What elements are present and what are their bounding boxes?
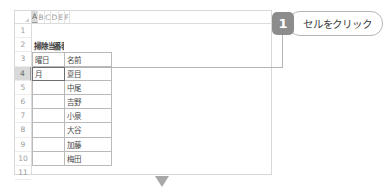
cell-e8[interactable] [191,123,231,137]
cell-a10[interactable] [32,152,65,166]
cell-a8[interactable] [32,123,65,137]
cell-e4[interactable] [191,67,231,81]
cell-d3[interactable] [152,52,192,66]
cell-c1[interactable] [112,24,152,38]
row-header-6[interactable]: 6 [15,95,31,109]
callout-step-1: 1 セルをクリック [272,11,383,36]
cell-c4[interactable] [112,67,152,81]
cell-f6[interactable] [231,95,271,109]
cell-b8-name[interactable]: 大谷 [65,123,112,137]
cell-c5[interactable] [112,81,152,95]
row-header-1[interactable]: 1 [15,24,31,38]
cell-b6-name[interactable]: 吉野 [65,95,112,109]
row-header-11[interactable]: 11 [15,166,31,180]
grid-row-1 [32,24,271,38]
step-number-badge: 1 [272,12,294,35]
cell-f11[interactable] [231,166,271,180]
cell-f3[interactable] [231,52,271,66]
grid-row-8: 大谷 [32,123,271,137]
row-header-10[interactable]: 10 [15,152,31,166]
spreadsheet-panel: A B C D E F 1 2 3 4 5 6 7 8 9 10 11 掃除当番… [14,10,272,175]
cell-d9[interactable] [152,138,192,152]
down-arrow-icon [155,176,169,187]
callout-connector-horizontal [56,67,283,68]
cell-f1[interactable] [231,24,271,38]
row-header-8[interactable]: 8 [15,123,31,137]
cell-b9-name[interactable]: 加藤 [65,138,112,152]
cell-d6[interactable] [152,95,192,109]
cell-d8[interactable] [152,123,192,137]
grid-body: 掃除当番表 曜日 名前 月 夏目 中尾 [32,24,271,174]
cell-c9[interactable] [112,138,152,152]
cell-d10[interactable] [152,152,192,166]
cell-e3[interactable] [191,52,231,66]
cell-f8[interactable] [231,123,271,137]
grid-row-10: 梅田 [32,152,271,166]
cell-c3[interactable] [112,52,152,66]
cell-c8[interactable] [112,123,152,137]
cell-a4-selected[interactable]: 月 [32,67,65,81]
grid-row-4: 月 夏目 [32,67,271,81]
cell-b5-name[interactable]: 中尾 [65,81,112,95]
cell-e7[interactable] [191,109,231,123]
cell-e5[interactable] [191,81,231,95]
row-header-7[interactable]: 7 [15,109,31,123]
callout-bubble-text: セルをクリック [288,11,383,36]
cell-d4[interactable] [152,67,192,81]
row-header-2[interactable]: 2 [15,38,31,52]
grid-row-11 [32,166,271,180]
cell-b2[interactable] [64,38,111,52]
cell-c11[interactable] [112,166,152,180]
cell-e10[interactable] [191,152,231,166]
column-header-f[interactable]: F [65,11,71,23]
column-header-row: A B C D E F [15,11,271,24]
row-header-5[interactable]: 5 [15,81,31,95]
row-header-3[interactable]: 3 [15,52,31,66]
cell-f2[interactable] [231,38,271,52]
cell-c6[interactable] [112,95,152,109]
select-all-corner[interactable] [15,11,32,23]
cell-b1[interactable] [64,24,111,38]
cell-e1[interactable] [191,24,231,38]
grid-row-2: 掃除当番表 [32,38,271,52]
grid-row-6: 吉野 [32,95,271,109]
cell-e2[interactable] [191,38,231,52]
cell-f10[interactable] [231,152,271,166]
cell-f7[interactable] [231,109,271,123]
grid-row-3: 曜日 名前 [32,52,271,66]
cell-a11[interactable] [32,166,64,180]
cell-f4[interactable] [231,67,271,81]
cell-c7[interactable] [112,109,152,123]
cell-b11[interactable] [64,166,111,180]
cell-a5[interactable] [32,81,65,95]
cell-e6[interactable] [191,95,231,109]
grid-row-5: 中尾 [32,81,271,95]
cell-a1[interactable] [32,24,64,38]
cell-b3-name-header[interactable]: 名前 [65,52,112,66]
cell-d5[interactable] [152,81,192,95]
row-header-4[interactable]: 4 [15,67,31,81]
row-header-9[interactable]: 9 [15,138,31,152]
cell-b10-name[interactable]: 梅田 [65,152,112,166]
cell-f5[interactable] [231,81,271,95]
grid-row-9: 加藤 [32,138,271,152]
grid-row-7: 小泉 [32,109,271,123]
column-header-d[interactable]: D [51,11,58,23]
cell-a9[interactable] [32,138,65,152]
cell-c2[interactable] [112,38,152,52]
cell-f9[interactable] [231,138,271,152]
callout-connector-vertical [282,34,283,67]
cell-c10[interactable] [112,152,152,166]
cell-b7-name[interactable]: 小泉 [65,109,112,123]
cell-a6[interactable] [32,95,65,109]
cell-e11[interactable] [191,166,231,180]
cell-e9[interactable] [191,138,231,152]
cell-a2-title[interactable]: 掃除当番表 [32,38,64,52]
cell-d7[interactable] [152,109,192,123]
cell-d2[interactable] [152,38,192,52]
row-header-column: 1 2 3 4 5 6 7 8 9 10 11 [15,24,32,174]
cell-b4-name[interactable]: 夏目 [65,67,112,81]
cell-a3-day-header[interactable]: 曜日 [32,52,65,66]
cell-a7[interactable] [32,109,65,123]
cell-d1[interactable] [152,24,192,38]
